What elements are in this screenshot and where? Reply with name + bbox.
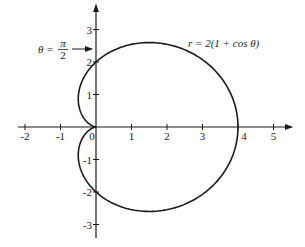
y-tick-label: -2 <box>83 186 92 198</box>
x-tick-label: -1 <box>56 130 65 142</box>
fraction-denominator: 2 <box>60 49 66 61</box>
fraction-numerator: π <box>60 37 66 49</box>
y-tick-label: -3 <box>83 219 93 231</box>
theta-annotation: θ = π 2 <box>38 37 92 61</box>
x-tick-label: 5 <box>271 130 277 142</box>
x-tick-label: 4 <box>241 130 247 142</box>
y-tick-label: 1 <box>87 89 93 101</box>
x-tick-label: 1 <box>129 130 135 142</box>
equation-label: r = 2(1 + cos θ) <box>188 37 260 50</box>
x-tick-label: 2 <box>164 130 170 142</box>
x-tick-label: 3 <box>200 130 206 142</box>
x-tick-label: 0 <box>89 130 95 142</box>
cardioid-diagram: -2-1012345 123-1-2-3 θ = π 2 r = 2(1 + c… <box>0 0 305 247</box>
theta-label: θ = <box>38 43 54 55</box>
y-tick-label: -1 <box>83 154 92 166</box>
x-tick-label: -2 <box>20 130 29 142</box>
y-tick-label: 3 <box>87 24 93 36</box>
